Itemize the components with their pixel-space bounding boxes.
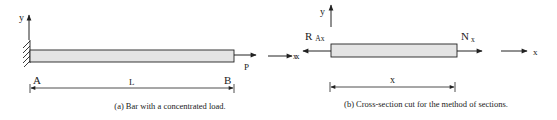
length-label: x: [390, 74, 395, 85]
length-label: L: [129, 77, 135, 87]
bar-segment: [331, 44, 457, 57]
panel-a: y P x A B L: [19, 12, 300, 111]
caption-b: (b) Cross-section cut for the method of …: [344, 99, 508, 109]
panel-b: y x RAx Nx x x (b) Cros: [293, 5, 538, 109]
y-axis-label: y: [320, 6, 325, 17]
normal-force-label: Nx: [461, 30, 475, 44]
y-axis-label: y: [19, 12, 24, 23]
left-x-label: x: [293, 52, 297, 61]
caption-a: (a) Bar with a concentrated load.: [114, 101, 225, 111]
reaction-label: RAx: [305, 30, 325, 43]
x-axis-label: x: [533, 47, 538, 57]
bar: [30, 50, 234, 62]
diagram-canvas: y P x A B L: [0, 0, 557, 120]
load-label: P: [244, 62, 249, 72]
point-b-label: B: [224, 74, 231, 86]
point-a-label: A: [33, 74, 41, 86]
fixed-support-icon: [23, 40, 30, 67]
